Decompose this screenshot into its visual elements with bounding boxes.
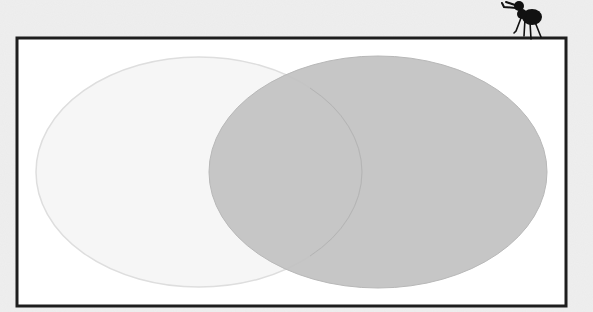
venn-diagram-canvas (0, 0, 593, 312)
venn-diagram (0, 0, 593, 312)
set-right-ellipse (209, 56, 547, 288)
